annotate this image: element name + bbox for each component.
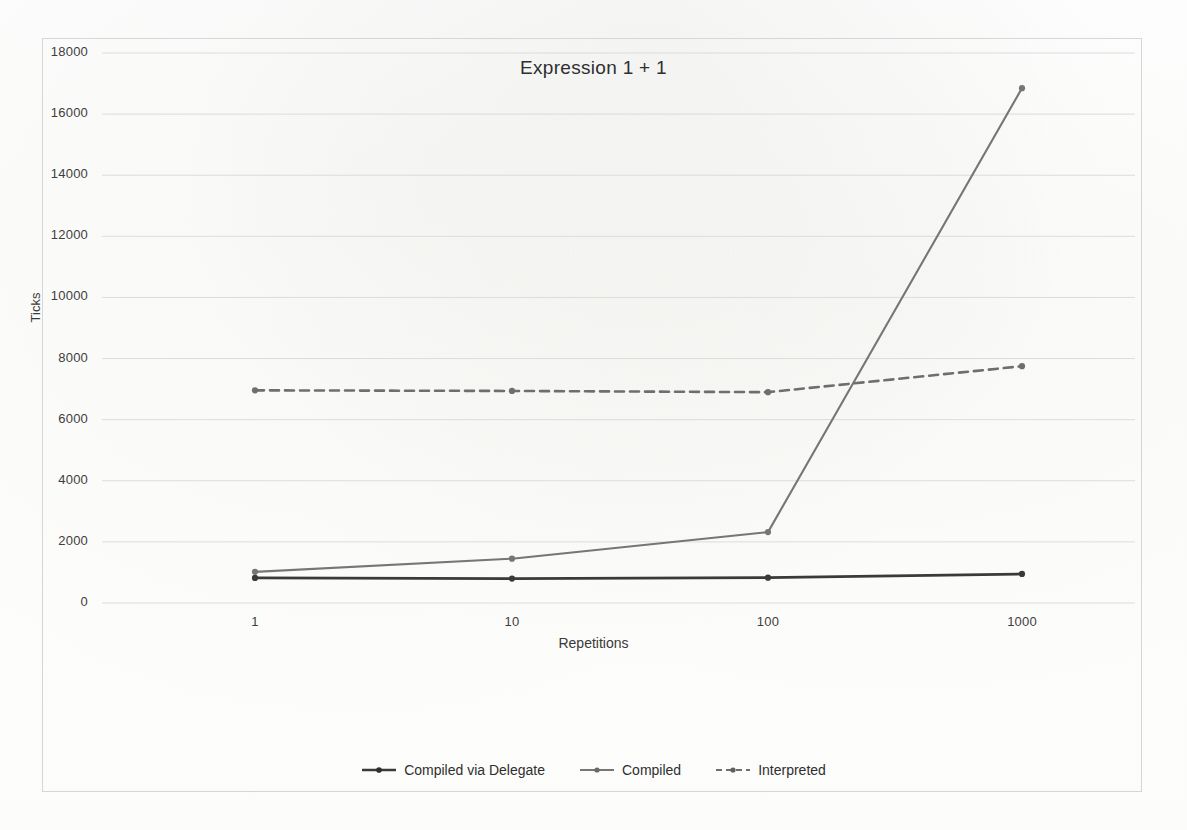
data-point xyxy=(765,389,771,395)
y-tick-label: 14000 xyxy=(8,166,88,181)
legend-swatch-dashed-icon xyxy=(715,763,751,777)
series-line-interpreted xyxy=(255,366,1022,392)
x-axis-title: Repetitions xyxy=(0,635,1187,651)
chart-legend: Compiled via Delegate Compiled Interpret… xyxy=(0,762,1187,778)
y-tick-label: 4000 xyxy=(8,472,88,487)
y-tick-label: 16000 xyxy=(8,105,88,120)
data-point xyxy=(1019,85,1025,91)
data-point xyxy=(1019,363,1025,369)
data-point xyxy=(252,387,258,393)
legend-swatch-solid-gray-icon xyxy=(579,763,615,777)
y-tick-label: 18000 xyxy=(8,44,88,59)
y-tick-label: 10000 xyxy=(8,288,88,303)
y-tick-label: 2000 xyxy=(8,533,88,548)
x-tick-label: 1 xyxy=(210,614,300,629)
y-tick-label: 6000 xyxy=(8,411,88,426)
chart-title: Expression 1 + 1 xyxy=(0,57,1187,79)
chart-plot-area xyxy=(0,0,1187,830)
legend-item-compiled[interactable]: Compiled xyxy=(579,762,681,778)
data-point xyxy=(252,575,258,581)
data-point xyxy=(1019,571,1025,577)
legend-label-compiled: Compiled xyxy=(622,762,681,778)
data-point xyxy=(765,529,771,535)
data-point xyxy=(765,575,771,581)
series-line-compiled xyxy=(255,88,1022,572)
y-tick-label: 8000 xyxy=(8,350,88,365)
legend-label-compiled-via-delegate: Compiled via Delegate xyxy=(404,762,545,778)
legend-swatch-solid-dark-icon xyxy=(361,763,397,777)
data-point xyxy=(509,575,515,581)
y-tick-label: 12000 xyxy=(8,227,88,242)
x-tick-label: 100 xyxy=(723,614,813,629)
y-tick-label: 0 xyxy=(8,594,88,609)
legend-item-interpreted[interactable]: Interpreted xyxy=(715,762,826,778)
y-axis-title: Ticks xyxy=(28,268,43,348)
series-line-compiled-via-delegate xyxy=(255,574,1022,579)
x-tick-label: 1000 xyxy=(977,614,1067,629)
legend-label-interpreted: Interpreted xyxy=(758,762,826,778)
data-point xyxy=(509,388,515,394)
x-tick-label: 10 xyxy=(467,614,557,629)
data-point xyxy=(509,556,515,562)
legend-item-compiled-via-delegate[interactable]: Compiled via Delegate xyxy=(361,762,545,778)
data-point xyxy=(252,569,258,575)
